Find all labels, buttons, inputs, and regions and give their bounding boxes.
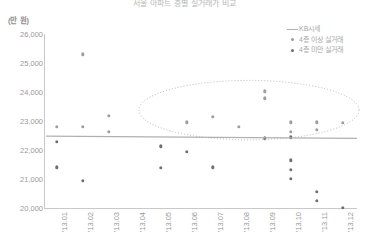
x-axis-tick-label: '13.11 — [320, 212, 329, 232]
legend-item[interactable]: 4층 이상 실거래 — [286, 35, 343, 46]
x-axis-tick-label: '13.02 — [86, 212, 95, 232]
legend-item[interactable]: 4층 미만 실거래 — [286, 45, 343, 56]
legend-item[interactable]: KB시세 — [286, 24, 343, 35]
scatter-chart: 서울 아파트 층별 실거래가 비교 (만 원) 26,00025,00024,0… — [0, 0, 369, 252]
x-axis-tick-label: '13.03 — [112, 212, 121, 232]
legend-dot-marker — [286, 38, 299, 41]
x-axis-tick-label: '13.07 — [216, 212, 225, 232]
legend-dot-swatch — [291, 38, 294, 41]
legend-item-label: KB시세 — [299, 24, 320, 35]
x-axis-tick-label: '13.01 — [60, 212, 69, 232]
legend-line-marker — [286, 29, 299, 31]
x-axis-tick-label: '13.09 — [268, 212, 277, 232]
x-axis-tick-label: '13.06 — [190, 212, 199, 232]
x-axis-tick-label: '13.08 — [242, 212, 251, 232]
x-axis-tick-label: '13.12 — [346, 212, 355, 232]
chart-legend: KB시세4층 이상 실거래4층 미만 실거래 — [286, 24, 343, 56]
legend-dot-marker — [286, 49, 299, 52]
legend-dot-swatch — [291, 49, 294, 52]
legend-item-label: 4층 이상 실거래 — [299, 35, 343, 46]
x-axis-tick-label: '13.04 — [138, 212, 147, 232]
x-axis-tick-label: '13.05 — [164, 212, 173, 232]
legend-line-swatch — [287, 29, 298, 31]
legend-item-label: 4층 미만 실거래 — [299, 45, 343, 56]
x-axis-tick-label: '13.10 — [294, 212, 303, 232]
